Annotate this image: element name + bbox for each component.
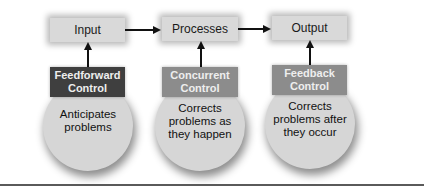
arrow-feedback-to-output	[309, 42, 311, 65]
stage-output: Output	[272, 16, 347, 40]
feedback-title: Feedback Control	[272, 65, 347, 95]
feedforward-description: Anticipates problems	[43, 108, 133, 134]
arrow-input-to-processes	[125, 29, 159, 31]
feedforward-desc-line1: Anticipates	[43, 108, 133, 121]
concurrent-description: Corrects problems as they happen	[155, 102, 245, 141]
feedforward-control: Feedforward Control Anticipates problems	[50, 67, 125, 97]
feedforward-title-line1: Feedforward	[54, 69, 120, 82]
feedback-title-line2: Control	[284, 80, 335, 93]
arrow-concurrent-to-processes	[200, 43, 202, 67]
concurrent-desc-line2: problems as	[155, 115, 245, 128]
bottom-divider	[0, 184, 424, 186]
concurrent-title-line2: Control	[170, 82, 229, 95]
feedback-description: Corrects problems after they occur	[265, 100, 355, 139]
stage-processes: Processes	[162, 17, 238, 41]
concurrent-title-line1: Concurrent	[170, 69, 229, 82]
concurrent-desc-line3: they happen	[155, 128, 245, 141]
feedforward-title-line2: Control	[54, 82, 120, 95]
feedback-control: Feedback Control Corrects problems after…	[272, 65, 347, 95]
feedback-desc-line2: problems after	[265, 113, 355, 126]
stage-output-label: Output	[291, 21, 327, 35]
stage-input-label: Input	[74, 23, 101, 37]
feedback-desc-line3: they occur	[265, 126, 355, 139]
concurrent-control: Concurrent Control Corrects problems as …	[162, 67, 238, 97]
feedforward-title: Feedforward Control	[50, 67, 125, 97]
concurrent-desc-line1: Corrects	[155, 102, 245, 115]
feedback-title-line1: Feedback	[284, 67, 335, 80]
arrow-processes-to-output	[238, 28, 269, 30]
stage-input: Input	[50, 18, 125, 42]
arrow-feedforward-to-input	[87, 44, 89, 67]
stage-processes-label: Processes	[172, 22, 228, 36]
feedforward-desc-line2: problems	[43, 121, 133, 134]
concurrent-title: Concurrent Control	[162, 67, 238, 97]
feedback-desc-line1: Corrects	[265, 100, 355, 113]
